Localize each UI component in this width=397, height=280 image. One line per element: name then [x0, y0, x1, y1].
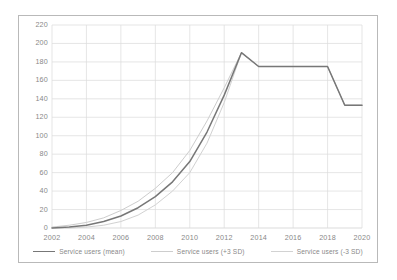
y-axis-tick-label: 200	[35, 40, 48, 47]
legend-item: Service users (mean)	[33, 248, 125, 255]
x-axis-tick-label: 2002	[44, 234, 61, 241]
y-axis-tick-label: 100	[35, 132, 48, 139]
x-axis-tick-label: 2018	[319, 234, 336, 241]
x-axis-tick-label: 2006	[112, 234, 129, 241]
chart-figure: 220200180160140120100806040200 200220042…	[18, 15, 378, 263]
y-axis-tick-label: 140	[35, 95, 48, 102]
series-line	[52, 53, 362, 227]
legend-item-label: Service users (+3 SD)	[177, 248, 245, 255]
x-axis-tick-label: 2008	[147, 234, 164, 241]
x-axis-tick-label: 2004	[78, 234, 95, 241]
legend-line-swatch	[151, 251, 173, 252]
legend-line-swatch	[271, 251, 293, 252]
y-axis-tick-label: 60	[40, 169, 48, 176]
legend-item-label: Service users (mean)	[59, 248, 125, 255]
plot-area: 220200180160140120100806040200 200220042…	[52, 25, 362, 228]
y-axis-tick-label: 180	[35, 58, 48, 65]
legend-item-label: Service users (-3 SD)	[297, 248, 363, 255]
series-line	[52, 53, 362, 228]
y-axis-tick-label: 220	[35, 21, 48, 28]
x-axis-tick-label: 2020	[354, 234, 371, 241]
chart-series-layer	[52, 25, 362, 228]
chart-legend: Service users (mean)Service users (+3 SD…	[19, 248, 377, 255]
x-axis-tick-label: 2010	[181, 234, 198, 241]
x-axis-tick-label: 2012	[216, 234, 233, 241]
y-axis-tick-label: 0	[44, 224, 48, 231]
y-axis-tick-label: 20	[40, 206, 48, 213]
y-axis-tick-label: 80	[40, 151, 48, 158]
x-axis-tick-label: 2016	[285, 234, 302, 241]
x-axis-tick-label: 2014	[250, 234, 267, 241]
legend-line-swatch	[33, 251, 55, 252]
legend-item: Service users (-3 SD)	[271, 248, 363, 255]
y-axis-tick-label: 120	[35, 114, 48, 121]
y-axis-tick-label: 160	[35, 77, 48, 84]
legend-item: Service users (+3 SD)	[151, 248, 245, 255]
series-line	[52, 53, 362, 228]
y-axis-tick-label: 40	[40, 187, 48, 194]
